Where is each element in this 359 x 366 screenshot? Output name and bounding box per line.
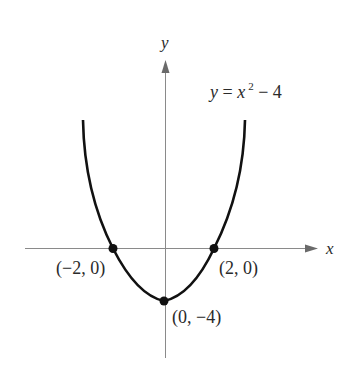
x-axis-arrow-icon: [305, 245, 318, 253]
point-label-2-0: (2, 0): [219, 258, 258, 279]
y-axis-arrow-icon: [162, 60, 170, 73]
point-2-0: [210, 244, 219, 253]
point-label-vertex: (0, −4): [172, 307, 221, 328]
x-axis-label: x: [325, 239, 334, 258]
point-neg2-0: [109, 244, 118, 253]
parabola-chart: y x y = x2 − 4 (−2, 0) (2, 0) (0, −4): [0, 0, 359, 366]
y-axis-label: y: [159, 33, 169, 52]
point-vertex: [160, 297, 169, 306]
graph-figure: y x y = x2 − 4 (−2, 0) (2, 0) (0, −4): [0, 0, 359, 366]
equation-label: y = x2 − 4: [208, 80, 282, 102]
point-label-neg2-0: (−2, 0): [56, 258, 105, 279]
